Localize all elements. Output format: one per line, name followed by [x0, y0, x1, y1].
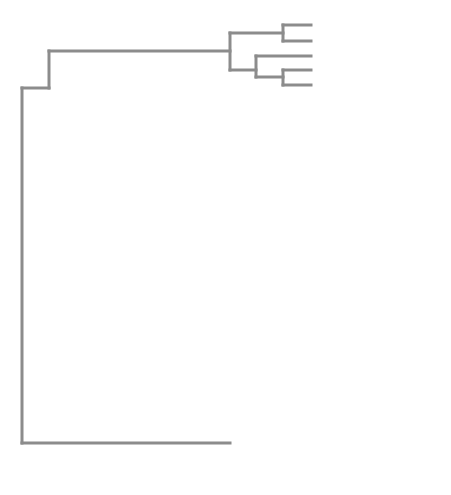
phylogeny: [0, 0, 451, 495]
grey-branches: [22, 25, 311, 443]
